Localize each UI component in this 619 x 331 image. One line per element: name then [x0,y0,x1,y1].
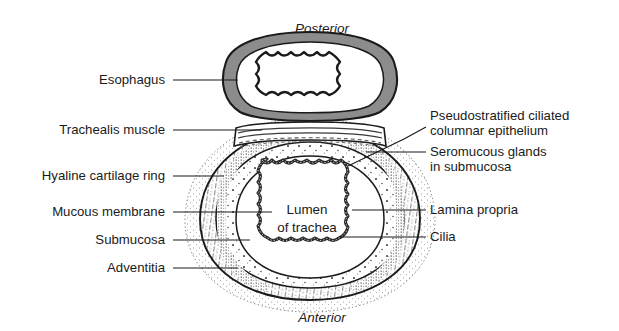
label-trachealis-muscle: Trachealis muscle [59,122,165,137]
label-lamina-propria: Lamina propria [430,202,519,217]
esophagus-lumen [256,52,340,95]
label-mucous-membrane: Mucous membrane [52,204,165,219]
label-epithelium-line1: Pseudostratified ciliated [430,108,569,123]
figure-canvas: Posterior Anterior Lumen of trachea Esop… [0,0,619,331]
esophagus-structure [223,32,397,121]
lumen-label-line1: Lumen [287,202,328,217]
label-seromucous-glands-line1: Seromucous glands [430,144,547,159]
label-seromucous-glands-line2: in submucosa [430,159,512,174]
label-esophagus: Esophagus [99,72,165,87]
label-adventitia: Adventitia [107,260,166,275]
label-submucosa: Submucosa [95,232,165,247]
label-epithelium-line2: columnar epithelium [430,123,548,138]
label-cilia: Cilia [430,229,456,244]
orientation-anterior: Anterior [297,310,346,325]
label-hyaline-cartilage: Hyaline cartilage ring [42,168,165,183]
orientation-posterior: Posterior [295,21,350,36]
trachea-esophagus-cross-section: Posterior Anterior Lumen of trachea Esop… [0,0,619,331]
lumen-label-line2: of trachea [277,220,337,235]
